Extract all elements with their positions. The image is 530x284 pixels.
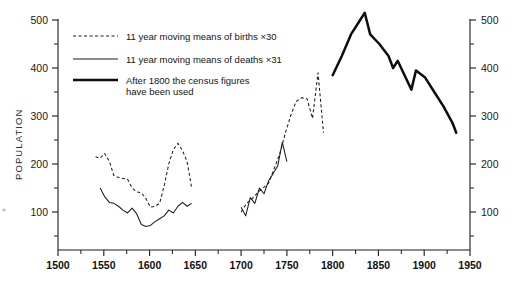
population-chart: POPULATION 500 400 300 200 100 500	[0, 0, 530, 284]
legend-label-census-line2: have been used	[126, 86, 194, 97]
y-tick-label-400: 400	[30, 62, 48, 74]
y-tick-label-200: 200	[30, 158, 48, 170]
x-tick-label-1550: 1550	[92, 259, 116, 271]
legend-label-census-line1: After 1800 the census figures	[126, 75, 250, 86]
legend-label-births: 11 year moving means of births ×30	[126, 31, 277, 42]
y2-tick-label-500: 500	[481, 14, 499, 26]
x-tick-label-1600: 1600	[138, 259, 162, 271]
x-tick-label-1650: 1650	[184, 259, 208, 271]
y2-tick-label-100: 100	[481, 206, 499, 218]
y-tick-label-100: 100	[30, 206, 48, 218]
x-tick-label-1800: 1800	[321, 259, 345, 271]
x-tick-label-1500: 1500	[46, 259, 70, 271]
y-axis-title: POPULATION	[13, 108, 24, 180]
page-artifact-speck	[2, 208, 5, 211]
y2-tick-label-200: 200	[481, 158, 499, 170]
x-tick-label-1950: 1950	[458, 259, 482, 271]
x-tick-label-1750: 1750	[275, 259, 299, 271]
y2-tick-label-400: 400	[481, 62, 499, 74]
chart-background	[0, 0, 530, 284]
legend-label-deaths: 11 year moving means of deaths ×31	[126, 54, 282, 65]
x-tick-label-1900: 1900	[413, 259, 437, 271]
x-tick-label-1850: 1850	[367, 259, 391, 271]
y2-tick-label-300: 300	[481, 110, 499, 122]
x-tick-label-1700: 1700	[229, 259, 253, 271]
y-tick-label-300: 300	[30, 110, 48, 122]
y-tick-label-500: 500	[30, 14, 48, 26]
